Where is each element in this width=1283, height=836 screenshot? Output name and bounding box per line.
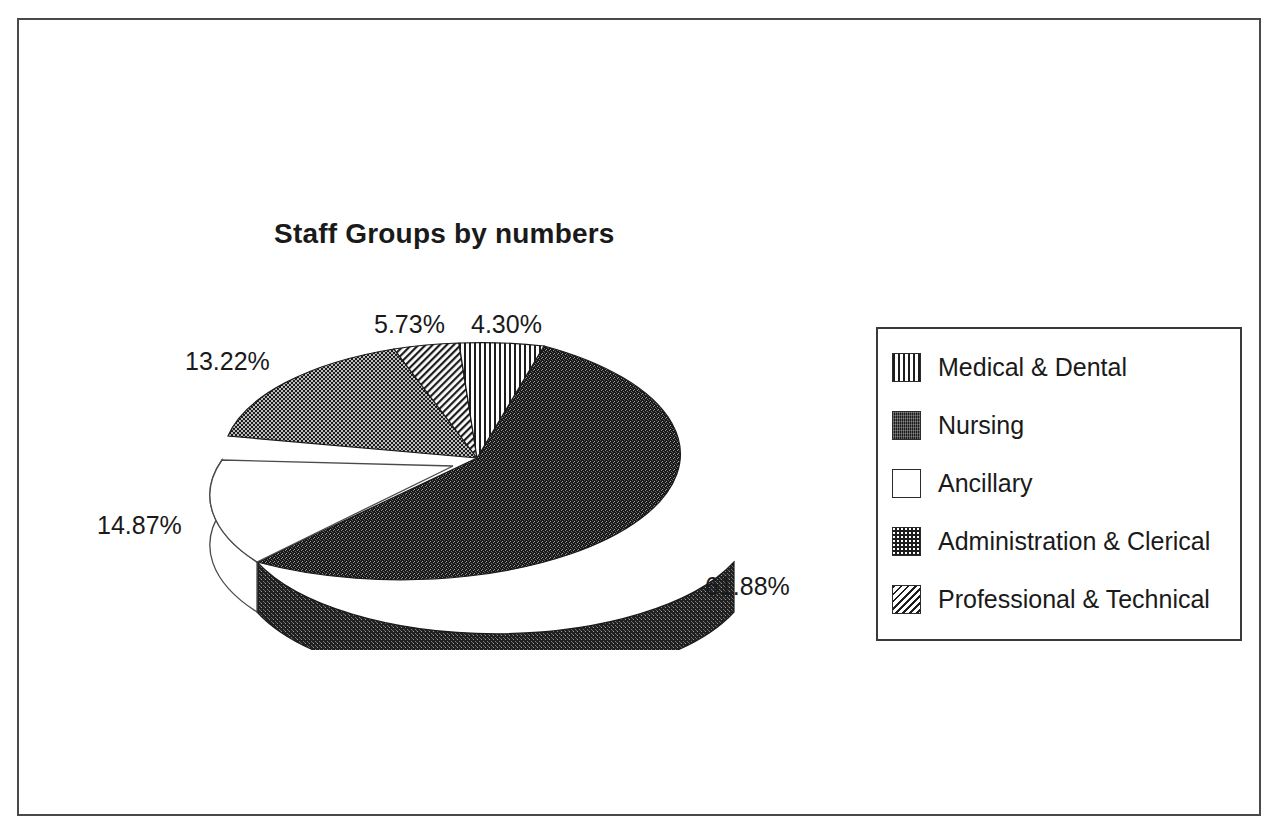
legend-item-medical-dental[interactable]: Medical & Dental (892, 350, 1127, 384)
legend-item-nursing[interactable]: Nursing (892, 408, 1024, 442)
chart-title: Staff Groups by numbers (274, 218, 694, 250)
chart-page: Staff Groups by numbers (0, 0, 1283, 836)
legend-label: Ancillary (938, 471, 1032, 496)
legend-item-ancillary[interactable]: Ancillary (892, 466, 1032, 500)
chart-legend: Medical & Dental Nursing Ancillary Admin… (876, 327, 1242, 641)
vertical-lines-swatch-icon (892, 353, 921, 382)
legend-item-administration-clerical[interactable]: Administration & Clerical (892, 524, 1210, 558)
slice-label-professional-technical: 5.73% (374, 310, 445, 339)
legend-label: Professional & Technical (938, 587, 1210, 612)
slice-label-ancillary: 14.87% (97, 511, 182, 540)
dense-noise-swatch-icon (892, 411, 921, 440)
slice-label-medical-dental: 4.30% (471, 310, 542, 339)
slice-label-administration-clerical: 13.22% (185, 347, 270, 376)
figure-frame: Staff Groups by numbers (17, 18, 1261, 816)
solid-white-swatch-icon (892, 469, 921, 498)
legend-label: Nursing (938, 413, 1024, 438)
legend-label: Administration & Clerical (938, 529, 1210, 554)
legend-label: Medical & Dental (938, 355, 1127, 380)
slice-label-nursing: 61.88% (705, 572, 790, 601)
legend-item-professional-technical[interactable]: Professional & Technical (892, 582, 1210, 616)
pie-top-faces (210, 343, 681, 580)
dot-grid-swatch-icon (892, 527, 921, 556)
diagonal-hatch-swatch-icon (892, 585, 921, 614)
